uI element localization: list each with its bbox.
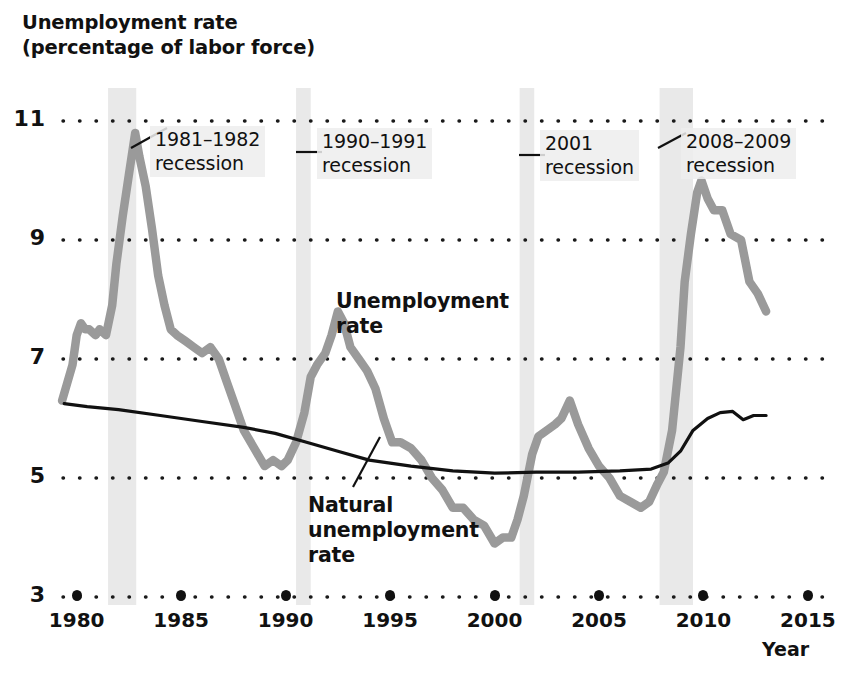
x-tick-label: 1980 <box>32 608 122 632</box>
x-axis-title: Year <box>762 638 809 660</box>
x-tick-label: 2000 <box>450 608 540 632</box>
x-tick-label: 2015 <box>763 608 851 632</box>
x-tick-dot <box>281 590 291 601</box>
x-tick-label: 2005 <box>554 608 644 632</box>
x-tick-dot <box>803 590 813 601</box>
annotation-recession-1990-1991: 1990–1991 recession <box>317 128 432 179</box>
annotation-recession-2008-2009: 2008–2009 recession <box>681 128 796 179</box>
x-tick-label: 1985 <box>136 608 226 632</box>
y-tick-label: 3 <box>2 582 46 607</box>
y-tick-label: 9 <box>2 225 46 250</box>
label-unemployment-rate: Unemployment rate <box>336 289 509 339</box>
chart-canvas <box>0 0 851 681</box>
figure-root: Unemployment rate (percentage of labor f… <box>0 0 851 681</box>
x-tick-label: 1995 <box>345 608 435 632</box>
label-natural-unemployment-rate: Natural unemployment rate <box>308 493 479 568</box>
y-tick-label: 7 <box>2 344 46 369</box>
annotation-recession-1981-1982: 1981–1982 recession <box>150 126 265 177</box>
annotation-recession-2001: 2001 recession <box>540 130 639 181</box>
x-tick-dot <box>490 590 500 601</box>
x-tick-dot <box>72 590 82 601</box>
y-tick-label: 5 <box>2 463 46 488</box>
x-tick-dot <box>594 590 604 601</box>
x-tick-label: 1990 <box>241 608 331 632</box>
x-tick-label: 2010 <box>658 608 748 632</box>
recession-band <box>520 88 535 605</box>
y-tick-label: 11 <box>2 106 46 131</box>
